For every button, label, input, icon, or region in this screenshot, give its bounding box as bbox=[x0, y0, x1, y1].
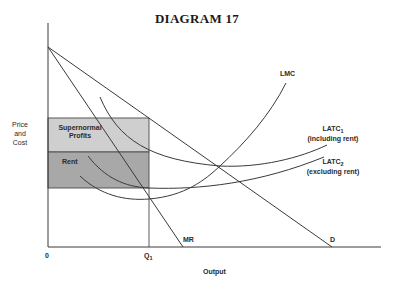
economics-diagram bbox=[0, 0, 394, 291]
latc1-name: LATC1 bbox=[303, 125, 363, 135]
latc2-label: LATC2 (excluding rent) bbox=[303, 158, 363, 176]
y-axis-label: Price and Cost bbox=[2, 120, 38, 147]
mr-label: MR bbox=[183, 236, 194, 244]
latc1-text: LATC bbox=[322, 125, 340, 132]
lmc-label: LMC bbox=[280, 70, 295, 78]
latc2-subscript: 2 bbox=[341, 161, 344, 167]
q1-subscript: 1 bbox=[149, 255, 152, 261]
latc2-text: LATC bbox=[322, 158, 340, 165]
latc2-note: (excluding rent) bbox=[303, 168, 363, 176]
origin-label: 0 bbox=[45, 252, 49, 260]
supernormal-profits-label: Supernormal Profits bbox=[50, 124, 110, 140]
x-axis-label: Output bbox=[203, 268, 226, 276]
rent-label: Rent bbox=[62, 158, 78, 166]
y-label-line-1: Price bbox=[2, 120, 38, 129]
profits-line-1: Supernormal bbox=[50, 124, 110, 132]
y-label-line-2: and bbox=[2, 129, 38, 138]
latc1-note: (including rent) bbox=[303, 135, 363, 143]
q1-label: Q1 bbox=[144, 252, 153, 262]
latc1-subscript: 1 bbox=[341, 128, 344, 134]
y-label-line-3: Cost bbox=[2, 138, 38, 147]
latc1-label: LATC1 (including rent) bbox=[303, 125, 363, 143]
latc2-name: LATC2 bbox=[303, 158, 363, 168]
profits-line-2: Profits bbox=[50, 132, 110, 140]
d-label: D bbox=[330, 236, 335, 244]
